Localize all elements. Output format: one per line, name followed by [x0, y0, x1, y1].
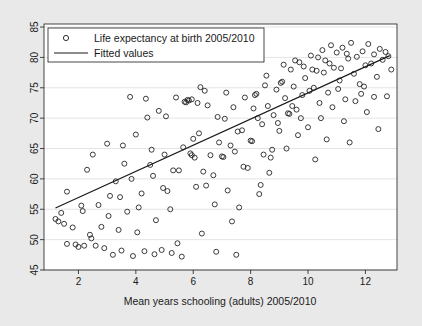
x-tick-label: 10 — [302, 276, 314, 287]
x-tick-label: 12 — [360, 276, 372, 287]
y-tick-label: 65 — [29, 143, 40, 155]
chart-figure: 455055606570758085 24681012 Mean years s… — [0, 0, 422, 326]
y-tick-label: 75 — [29, 82, 40, 94]
legend-label-series: Life expectancy at birth 2005/2010 — [94, 32, 255, 44]
y-tick-label: 70 — [29, 112, 40, 124]
scatter-plot: 455055606570758085 24681012 Mean years s… — [0, 0, 422, 326]
x-axis-title: Mean years schooling (adults) 2005/2010 — [124, 295, 317, 307]
y-tick-label: 85 — [29, 21, 40, 33]
x-tick-label: 6 — [190, 276, 196, 287]
legend-label-fit: Fitted values — [94, 47, 154, 59]
y-tick-label: 45 — [29, 264, 40, 276]
x-tick-label: 8 — [248, 276, 254, 287]
y-tick-label: 55 — [29, 203, 40, 215]
y-tick-label: 50 — [29, 234, 40, 246]
x-tick-label: 4 — [133, 276, 139, 287]
chart-legend: Life expectancy at birth 2005/2010 Fitte… — [48, 28, 264, 62]
y-tick-label: 80 — [29, 51, 40, 63]
y-tick-label: 60 — [29, 173, 40, 185]
x-tick-label: 2 — [76, 276, 82, 287]
